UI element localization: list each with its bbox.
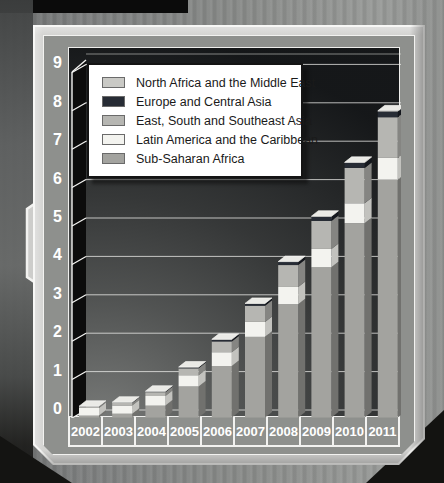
y-axis-label-8: 8 bbox=[36, 93, 62, 111]
bar-side bbox=[398, 174, 401, 418]
bar-2004 bbox=[145, 386, 172, 418]
bar-segment bbox=[378, 111, 398, 117]
y-axis-label-0: 0 bbox=[36, 400, 62, 418]
legend-swatch-icon bbox=[102, 77, 125, 88]
bar-segment bbox=[311, 249, 331, 267]
x-axis-label-2003: 2003 bbox=[101, 417, 134, 445]
bar-segment bbox=[378, 117, 398, 158]
bar-segment bbox=[245, 304, 265, 306]
legend-swatch-icon bbox=[102, 153, 125, 164]
legend-item: East, South and Southeast Asia bbox=[89, 111, 301, 130]
legend-item: Sub-Saharan Africa bbox=[89, 149, 301, 168]
bar-segment bbox=[311, 221, 331, 249]
bar-side bbox=[232, 361, 239, 418]
bar-2011 bbox=[378, 105, 401, 417]
bar-segment bbox=[179, 386, 199, 417]
x-axis-label-2002: 2002 bbox=[68, 417, 101, 445]
bar-segment bbox=[212, 341, 232, 352]
bar-segment bbox=[345, 203, 365, 223]
bar-segment bbox=[145, 396, 165, 406]
x-axis-label-2010: 2010 bbox=[332, 417, 365, 445]
bar-segment bbox=[345, 163, 365, 168]
legend: North Africa and the Middle EastEurope a… bbox=[87, 63, 303, 178]
x-axis-label-2005: 2005 bbox=[167, 417, 200, 445]
bar-segment bbox=[311, 217, 331, 221]
x-axis-label-2007: 2007 bbox=[233, 417, 266, 445]
legend-label: Europe and Central Asia bbox=[136, 95, 272, 109]
bar-side bbox=[298, 299, 305, 418]
legend-item: Latin America and the Caribbean bbox=[89, 130, 301, 149]
y-axis-label-5: 5 bbox=[36, 208, 62, 226]
bar-2010 bbox=[345, 157, 372, 418]
bar-segment bbox=[245, 337, 265, 418]
axis-wall bbox=[72, 60, 86, 418]
bar-2002 bbox=[79, 401, 106, 418]
x-axis-label-2011: 2011 bbox=[365, 417, 400, 445]
bar-segment bbox=[212, 352, 232, 366]
y-axis-label-9: 9 bbox=[36, 54, 62, 72]
legend-swatch-icon bbox=[102, 115, 125, 126]
x-axis-label-2008: 2008 bbox=[266, 417, 299, 445]
y-axis: 0123456789 bbox=[36, 47, 64, 417]
legend-swatch-icon bbox=[102, 96, 125, 107]
legend-label: Sub-Saharan Africa bbox=[136, 152, 244, 166]
bar-segment bbox=[79, 407, 99, 408]
bar-segment bbox=[179, 375, 199, 386]
bar-segment bbox=[79, 408, 99, 416]
bar-segment bbox=[278, 304, 298, 417]
bar-side bbox=[365, 162, 372, 203]
bar-segment bbox=[145, 406, 165, 418]
legend-item: Europe and Central Asia bbox=[89, 92, 301, 111]
bar-segment bbox=[378, 179, 398, 417]
bar-side bbox=[331, 215, 338, 249]
bar-side bbox=[199, 381, 206, 418]
bar-segment bbox=[179, 368, 199, 375]
bar-segment bbox=[145, 392, 165, 396]
legend-label: North Africa and the Middle East bbox=[136, 76, 315, 90]
legend-swatch-icon bbox=[102, 134, 125, 145]
bar-side bbox=[398, 112, 401, 158]
bar-2009 bbox=[311, 211, 338, 418]
x-axis-label-2006: 2006 bbox=[200, 417, 233, 445]
y-axis-label-1: 1 bbox=[36, 362, 62, 380]
bar-2007 bbox=[245, 298, 272, 418]
bar-segment bbox=[212, 366, 232, 417]
y-axis-label-7: 7 bbox=[36, 131, 62, 149]
x-axis-label-2009: 2009 bbox=[299, 417, 332, 445]
bar-2008 bbox=[278, 256, 305, 417]
bar-side bbox=[365, 218, 372, 418]
legend-label: East, South and Southeast Asia bbox=[136, 114, 312, 128]
y-axis-label-6: 6 bbox=[36, 170, 62, 188]
y-axis-label-2: 2 bbox=[36, 323, 62, 341]
bar-segment bbox=[278, 265, 298, 287]
legend-label: Latin America and the Caribbean bbox=[136, 133, 318, 147]
bar-2005 bbox=[179, 362, 206, 418]
bar-segment bbox=[311, 267, 331, 417]
bar-segment bbox=[378, 158, 398, 180]
y-axis-label-3: 3 bbox=[36, 285, 62, 303]
bar-segment bbox=[212, 340, 232, 342]
bar-segment bbox=[278, 262, 298, 265]
bar-segment bbox=[278, 287, 298, 304]
bar-segment bbox=[112, 403, 132, 406]
bar-segment bbox=[245, 306, 265, 322]
x-axis-label-2004: 2004 bbox=[134, 417, 167, 445]
bar-segment bbox=[345, 223, 365, 417]
bar-segment bbox=[345, 168, 365, 203]
bar-2003 bbox=[112, 397, 139, 418]
bar-side bbox=[265, 331, 272, 417]
bar-segment bbox=[112, 406, 132, 414]
bar-top bbox=[378, 105, 401, 111]
bar-2006 bbox=[212, 334, 239, 418]
y-axis-label-4: 4 bbox=[36, 246, 62, 264]
bar-side bbox=[331, 262, 338, 418]
bar-segment bbox=[245, 322, 265, 337]
legend-item: North Africa and the Middle East bbox=[89, 73, 301, 92]
figure: Millions 0123456789 20022003200420052006… bbox=[0, 0, 444, 483]
x-axis: 2002200320042005200620072008200920102011 bbox=[68, 417, 400, 447]
